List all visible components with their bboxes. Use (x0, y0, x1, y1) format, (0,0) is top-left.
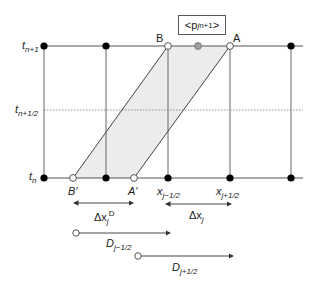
grid-verticals (44, 46, 291, 178)
label-d-j-plus-half: Dj+1/2 (172, 262, 198, 276)
cell-average-box: <pjn+1> (178, 15, 226, 35)
label-point-b: B (156, 33, 163, 44)
label-point-a: A (233, 33, 240, 44)
label-delta-x-cell: Δxj (189, 210, 204, 224)
label-delta-x-departure: ΔxjD (94, 210, 114, 226)
label-t-n-plus-half: tn+1/2 (15, 104, 38, 118)
label-x-j-plus-half: xj+1/2 (216, 186, 239, 200)
label-point-a-prime: A' (128, 186, 137, 197)
departure-region (73, 46, 230, 178)
point-cell-center-node (195, 43, 202, 50)
label-d-j-minus-half: Dj−1/2 (106, 238, 132, 252)
point-b-prime-node (70, 175, 77, 182)
point-b-node (165, 43, 172, 50)
trajectory-right-origin (135, 253, 141, 259)
label-point-b-prime: B' (68, 186, 77, 197)
point-a-prime-node (131, 175, 138, 182)
label-t-n: tn (29, 171, 37, 185)
label-x-j-minus-half: xj−1/2 (157, 186, 180, 200)
trajectory-left-origin (73, 230, 79, 236)
label-t-n-plus-1: tn+1 (22, 40, 39, 54)
